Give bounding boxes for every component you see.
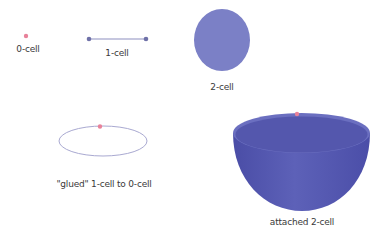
two-cell-label: 2-cell bbox=[210, 82, 233, 92]
diagram-canvas bbox=[0, 0, 389, 236]
glued-loop bbox=[59, 124, 147, 156]
one-cell-label: 1-cell bbox=[105, 48, 128, 58]
zero-cell-label: 0-cell bbox=[16, 44, 39, 54]
two-cell-disk bbox=[194, 9, 250, 71]
one-cell-segment bbox=[87, 37, 149, 42]
attached-label: attached 2-cell bbox=[270, 217, 334, 227]
glued-label: "glued" 1-cell to 0-cell bbox=[56, 179, 151, 189]
zero-cell-point bbox=[24, 34, 28, 38]
attached-two-cell-bowl bbox=[233, 112, 370, 211]
